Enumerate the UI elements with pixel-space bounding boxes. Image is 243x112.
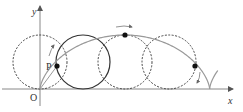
x-axis-label: x bbox=[227, 95, 233, 106]
point-p bbox=[54, 63, 59, 68]
point-descending bbox=[192, 63, 197, 68]
next-arch-curve bbox=[210, 71, 218, 89]
point-p-label: P bbox=[46, 61, 52, 72]
direction-arrow-icon bbox=[116, 26, 132, 27]
rotation-arrow-icon bbox=[49, 45, 54, 56]
cycloid-figure: y x O P bbox=[0, 0, 243, 112]
traced-points bbox=[54, 32, 197, 68]
circle-descending bbox=[142, 35, 196, 89]
cycloid-curve bbox=[40, 35, 210, 89]
cycloid-diagram: y x O P bbox=[0, 0, 243, 112]
origin-label: O bbox=[30, 92, 37, 103]
y-axis-label: y bbox=[31, 6, 37, 17]
rotation-arrow-icon bbox=[197, 72, 200, 83]
circle-at-top bbox=[98, 35, 152, 89]
point-top bbox=[122, 32, 127, 37]
